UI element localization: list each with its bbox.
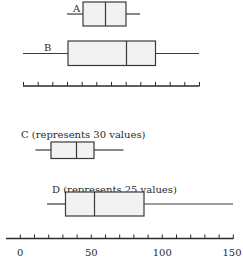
lower-axis: 0 50 100 150 [6,235,242,259]
boxplot-b-box [68,41,156,66]
box-plot-figure: A B [0,0,243,262]
tick-label-0: 0 [17,247,23,258]
boxplot-a: A [67,2,140,26]
tick-label-150: 150 [222,247,241,258]
tick-label-100: 100 [153,247,172,258]
tick-label-50: 50 [85,247,98,258]
boxplot-d: D (represents 25 values) [47,184,233,216]
lower-panel: C (represents 30 values) D (represents 2… [6,129,242,258]
boxplot-d-box [66,192,145,216]
boxplot-a-label: A [72,3,81,14]
boxplot-c-label: C (represents 30 values) [21,129,146,140]
upper-axis [23,82,200,86]
boxplot-c: C (represents 30 values) [21,129,146,159]
boxplot-b-label: B [44,42,51,53]
boxplot-a-box [83,2,126,26]
boxplot-c-box [51,142,94,159]
boxplot-b: B [23,41,199,66]
upper-panel: A B [23,2,200,86]
